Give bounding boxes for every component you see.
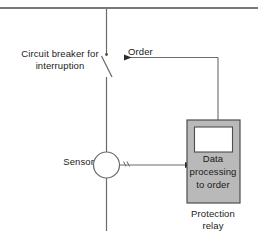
- relay-display-window: [195, 127, 233, 152]
- order-signal-label: Order: [128, 46, 174, 58]
- circuit-breaker-label: Circuit breaker for interruption: [8, 48, 112, 72]
- sensor-label: Sensor: [46, 156, 94, 168]
- sensor-circle: [94, 152, 120, 178]
- protection-relay-caption: Protection relay: [178, 208, 248, 232]
- measurement-tick-1: [124, 162, 127, 167]
- relay-function-label: Data processing to order: [186, 152, 240, 191]
- protection-relay-diagram: Circuit breaker for interruption Order S…: [0, 0, 258, 245]
- measurement-tick-2: [127, 162, 130, 167]
